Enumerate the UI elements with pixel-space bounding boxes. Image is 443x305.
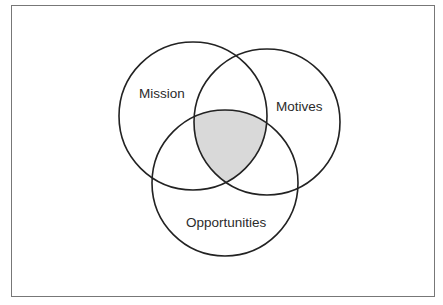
opportunities-label: Opportunities bbox=[186, 215, 267, 230]
venn-diagram: Mission Motives Opportunities bbox=[0, 0, 443, 305]
motives-label: Motives bbox=[276, 99, 323, 114]
mission-label: Mission bbox=[139, 86, 185, 101]
